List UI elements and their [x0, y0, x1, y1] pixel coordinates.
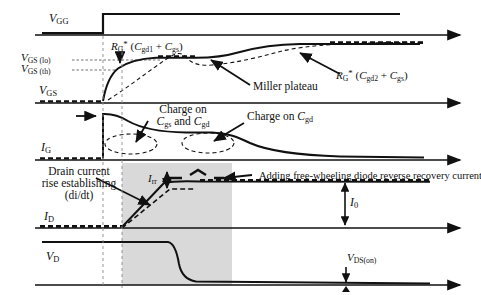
vgg-waveform [42, 14, 400, 33]
charge-cgs-cgd-ellipse [105, 134, 157, 154]
miller-plateau-arrow [211, 60, 250, 85]
annotation-miller-plateau: Miller plateau [253, 80, 318, 92]
annotation-vds-on: VDS(on) [347, 252, 376, 265]
annotation-rg-cgd1: RG* (Cgd1 + Cgs) [111, 40, 183, 54]
waveform-canvas [0, 0, 481, 295]
annotation-charge-cgs-cgd: Charge on Cgs and Cgd [135, 103, 231, 130]
vds-on-arrow-bottom [342, 286, 350, 292]
axis-label-id: ID [44, 210, 54, 225]
annotation-freewheeling-diode: Adding free-wheeling diode reverse recov… [259, 170, 481, 181]
axis-label-ig: IG [41, 141, 51, 156]
rg-cgd2-arrow [300, 53, 340, 74]
axis-label-vgs: VGS [39, 84, 57, 99]
axis-label-vgg: VGG [49, 12, 68, 27]
annotation-charge-cgd: Charge on Cgd [247, 110, 313, 125]
annotation-irr: Irr [148, 173, 157, 186]
annotation-rg-cgd2: RG* (Cgd2 + Cgs) [336, 69, 408, 83]
axis-label-vd: VD [46, 250, 59, 265]
charge-cgd-ellipse [182, 133, 234, 153]
annotation-i0: I0 [350, 196, 358, 211]
annotation-drain-current-rise: Drain current rise establishing (di/dt) [25, 165, 133, 201]
level-label-vgs-th: VGS (th) [21, 63, 51, 76]
waveform-figure: VGG VGS (lo) VGS (th) VGS RG* (Cgd1 + Cg… [0, 0, 481, 295]
